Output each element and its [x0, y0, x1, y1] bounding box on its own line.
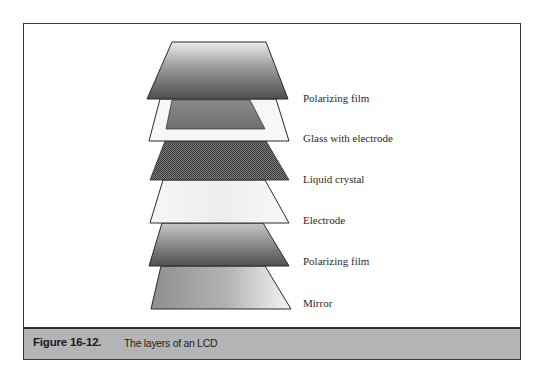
glass-inner-electrode — [166, 100, 265, 129]
label-electrode: Electrode — [303, 214, 345, 226]
layer-mirror — [151, 266, 291, 309]
layer-electrode — [150, 180, 289, 223]
figure-caption-bar: Figure 16-12. The layers of an LCD — [23, 327, 521, 360]
lcd-layers-diagram — [0, 0, 546, 374]
label-liquid-crystal: Liquid crystal — [303, 173, 364, 185]
layer-polarizing-film-lower — [149, 223, 289, 266]
label-glass-with-electrode: Glass with electrode — [303, 132, 393, 144]
label-polarizing-film-lower: Polarizing film — [303, 255, 369, 267]
label-mirror: Mirror — [303, 297, 332, 309]
layer-polarizing-film-upper — [147, 42, 288, 99]
layer-liquid-crystal — [150, 141, 289, 180]
layer-glass-with-electrode — [149, 99, 289, 141]
label-polarizing-film-upper: Polarizing film — [303, 92, 369, 104]
figure-caption: The layers of an LCD — [124, 337, 217, 349]
figure-number: Figure 16-12. — [33, 336, 101, 348]
